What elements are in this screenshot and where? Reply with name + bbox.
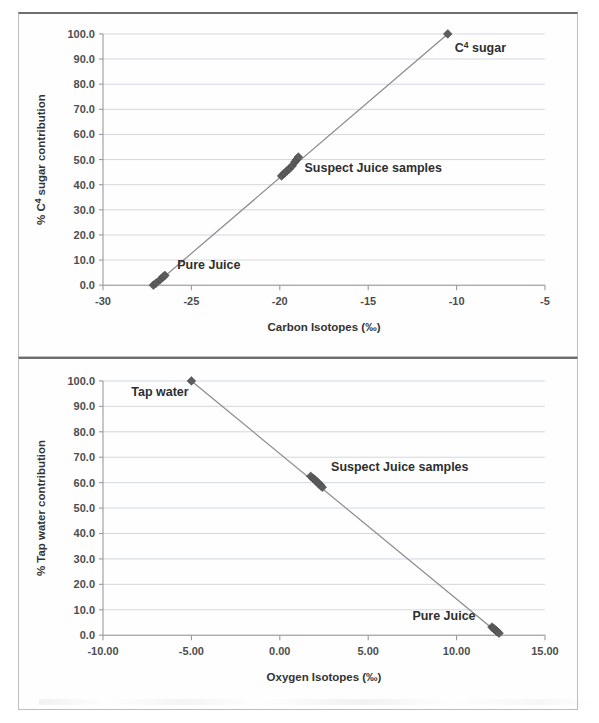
x-tick-label: 5.00: [358, 645, 379, 657]
series-annotation-label: Suspect Juice samples: [305, 161, 442, 175]
series-annotation-label: Tap water: [131, 385, 189, 399]
chart-panel-carbon: 0.010.020.030.040.050.060.070.080.090.01…: [18, 12, 578, 357]
y-tick-label: 100.0: [68, 28, 95, 40]
x-axis-title: Oxygen Isotopes (‰): [267, 671, 382, 683]
y-tick-label: 70.0: [74, 103, 95, 115]
series-annotation-label: Suspect Juice samples: [331, 460, 468, 474]
y-tick-label: 0.0: [80, 629, 95, 641]
mixing-line: [191, 381, 499, 634]
y-tick-label: 60.0: [74, 128, 95, 140]
y-tick-label: 90.0: [74, 53, 95, 65]
series-annotation-label: Pure Juice: [412, 609, 475, 623]
y-tick-label: 50.0: [74, 502, 95, 514]
y-tick-label: 20.0: [74, 229, 95, 241]
x-tick-label: -20: [272, 295, 288, 307]
y-axis-title: % Tap water contribution: [35, 440, 47, 576]
y-tick-label: 60.0: [74, 477, 95, 489]
y-tick-label: 40.0: [74, 179, 95, 191]
y-tick-label: 70.0: [74, 451, 95, 463]
x-tick-label: 0.00: [269, 645, 290, 657]
carbon-isotope-scatter-chart: 0.010.020.030.040.050.060.070.080.090.01…: [19, 14, 577, 356]
y-tick-label: 10.0: [74, 604, 95, 616]
x-tick-label: -10: [449, 295, 465, 307]
y-tick-label: 100.0: [68, 375, 95, 387]
plot-area-oxygen: 0.010.020.030.040.050.060.070.080.090.01…: [19, 359, 577, 709]
y-axis-title: % C4 sugar contribution: [33, 94, 47, 225]
x-tick-label: -5: [540, 295, 550, 307]
y-tick-label: 0.0: [80, 279, 95, 291]
y-tick-label: 30.0: [74, 553, 95, 565]
isotope-mixing-figure: 0.010.020.030.040.050.060.070.080.090.01…: [0, 0, 599, 723]
x-tick-label: -10.00: [87, 645, 118, 657]
y-tick-label: 80.0: [74, 78, 95, 90]
y-tick-label: 20.0: [74, 578, 95, 590]
scan-artifact: [39, 699, 595, 705]
chart-panel-oxygen: 0.010.020.030.040.050.060.070.080.090.01…: [18, 357, 578, 710]
x-tick-label: 15.00: [531, 645, 558, 657]
x-tick-label: -25: [183, 295, 199, 307]
y-tick-label: 50.0: [74, 154, 95, 166]
series-annotation-label: C4 sugar: [455, 40, 506, 55]
series-annotation-label: Pure Juice: [177, 258, 240, 272]
y-tick-label: 40.0: [74, 528, 95, 540]
x-tick-label: 10.00: [443, 645, 470, 657]
y-tick-label: 30.0: [74, 204, 95, 216]
oxygen-isotope-scatter-chart: 0.010.020.030.040.050.060.070.080.090.01…: [19, 359, 577, 709]
x-axis-title: Carbon Isotopes (‰): [268, 321, 381, 333]
x-tick-label: -15: [360, 295, 376, 307]
y-tick-label: 80.0: [74, 426, 95, 438]
x-tick-label: -5.00: [179, 645, 204, 657]
x-tick-label: -30: [95, 295, 111, 307]
y-tick-label: 90.0: [74, 400, 95, 412]
y-tick-label: 10.0: [74, 254, 95, 266]
plot-area-carbon: 0.010.020.030.040.050.060.070.080.090.01…: [19, 14, 577, 356]
